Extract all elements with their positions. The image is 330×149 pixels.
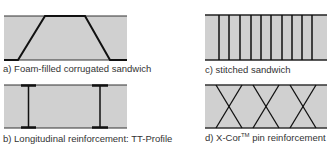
- panel-d-x-cor: [205, 85, 327, 128]
- panel-c-stitched-sandwich: [205, 15, 327, 60]
- caption-d: d) X-CorTM pin reinforcement: [205, 132, 326, 143]
- caption-d-trademark: TM: [241, 132, 250, 138]
- caption-c: c) stitched sandwich: [205, 64, 291, 75]
- caption-d-prefix: d) X-Cor: [205, 132, 241, 143]
- caption-a: a) Foam-filled corrugated sandwich: [3, 63, 151, 74]
- panel-a-corrugated-sandwich: [4, 16, 127, 60]
- panel-b-tt-profile: [4, 85, 127, 128]
- caption-d-suffix: pin reinforcement: [250, 132, 326, 143]
- caption-b: b) Longitudinal reinforcement: TT-Profil…: [3, 133, 172, 144]
